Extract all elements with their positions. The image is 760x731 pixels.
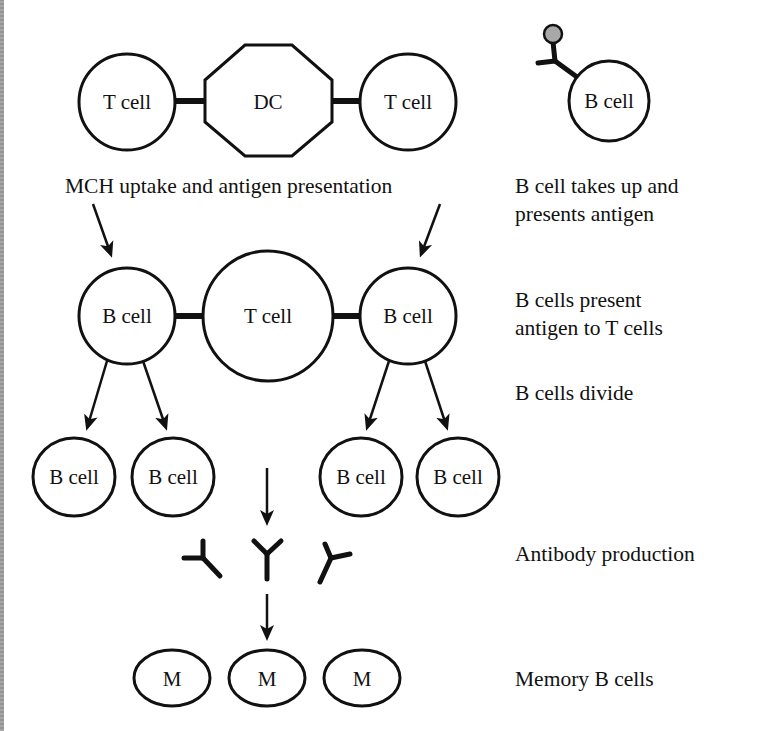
t-cell-row2-center: T cell <box>203 251 333 381</box>
diagram-canvas: T cell DC T cell B cell MCH uptake and a… <box>0 0 760 731</box>
t-cell-right: T cell <box>360 54 456 150</box>
antibody-icon-left <box>184 541 220 576</box>
arrow-divide-2 <box>143 361 165 425</box>
b-cell-row3-1-label: B cell <box>49 465 99 489</box>
row1-group: T cell DC T cell B cell <box>79 25 649 156</box>
antibodies-group <box>184 541 350 582</box>
arrow-divide-1 <box>88 361 107 425</box>
memory-cell-3: M <box>324 650 400 706</box>
t-cell-right-label: T cell <box>384 90 432 114</box>
t-cell-left-label: T cell <box>103 90 151 114</box>
antibody-receptor-stem <box>555 61 577 77</box>
b-cell-row2-right-label: B cell <box>383 304 433 328</box>
arrow-divide-3 <box>368 361 389 425</box>
side-label-step2-line1: B cells present <box>515 288 642 312</box>
b-cell-row3-3: B cell <box>320 438 402 516</box>
b-cell-row2-left-label: B cell <box>102 304 152 328</box>
memory-cell-3-label: M <box>353 667 372 691</box>
arrow-divide-4 <box>425 361 446 425</box>
side-label-step4: Antibody production <box>515 542 695 566</box>
row2-group: B cell T cell B cell <box>79 251 456 381</box>
b-cell-row3-2: B cell <box>132 438 214 516</box>
dc-label: DC <box>253 90 282 114</box>
side-label-step5: Memory B cells <box>515 667 654 691</box>
memory-cell-1-label: M <box>163 667 182 691</box>
side-label-step1-line1: B cell takes up and <box>515 174 679 198</box>
t-cell-left: T cell <box>79 54 175 150</box>
memory-cells-group: M M M <box>134 650 400 706</box>
memory-cell-2-label: M <box>258 667 277 691</box>
b-cell-row3-4: B cell <box>417 438 499 516</box>
b-cell-antigen-label: B cell <box>584 89 634 113</box>
t-cell-row2-label: T cell <box>244 304 292 328</box>
b-cell-with-antigen: B cell <box>538 25 649 141</box>
side-label-step1-line2: presents antigen <box>515 202 654 226</box>
memory-cell-2: M <box>229 650 305 706</box>
arrow-down-right <box>422 204 440 252</box>
dendritic-cell: DC <box>205 45 332 156</box>
b-cell-row2-left: B cell <box>79 268 175 364</box>
antibody-receptor-arm <box>538 61 555 63</box>
memory-cell-1: M <box>134 650 210 706</box>
antibody-icon-center <box>254 541 281 579</box>
antigen-icon <box>544 25 562 43</box>
b-cell-row3-1: B cell <box>33 438 115 516</box>
b-cell-row2-right: B cell <box>360 268 456 364</box>
b-cell-row3-4-label: B cell <box>433 465 483 489</box>
antibody-icon-right <box>320 544 350 582</box>
b-cell-row3-2-label: B cell <box>148 465 198 489</box>
side-label-step3: B cells divide <box>515 381 633 405</box>
arrow-down-left <box>93 204 110 252</box>
antibody-receptor-arm2 <box>553 42 555 61</box>
b-cell-row3-3-label: B cell <box>336 465 386 489</box>
side-label-step2-line2: antigen to T cells <box>515 316 663 340</box>
caption-mhc-uptake: MCH uptake and antigen presentation <box>65 174 392 198</box>
